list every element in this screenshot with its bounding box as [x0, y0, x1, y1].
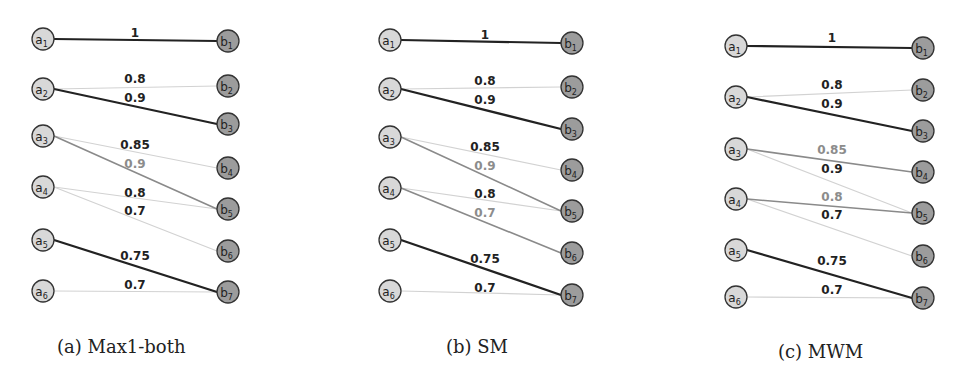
node-b6: b6: [912, 245, 934, 267]
weight-a5-b7: 0.75: [120, 249, 150, 263]
weight-a4-b5: 0.8: [124, 186, 145, 200]
weight-a5-b7: 0.75: [817, 254, 847, 268]
weight-a4-b6: 0.7: [821, 208, 842, 222]
weight-a4-b5: 0.8: [474, 187, 495, 201]
node-b3: b3: [217, 113, 239, 135]
node-a6: a6: [32, 280, 54, 302]
edge-weights: 10.80.90.850.90.80.70.750.7: [470, 28, 500, 295]
caption-sm: (b) SM: [446, 336, 508, 357]
node-a3: a3: [379, 126, 401, 148]
node-b2: b2: [912, 79, 934, 101]
weight-a2-b2: 0.8: [124, 72, 145, 86]
weight-a2-b3: 0.9: [124, 91, 145, 105]
node-a1: a1: [32, 28, 54, 50]
node-b3: b3: [912, 120, 934, 142]
weight-a3-b4: 0.85: [470, 140, 500, 154]
node-b5: b5: [561, 200, 583, 222]
weight-a6-b7: 0.7: [474, 281, 495, 295]
node-a4: a4: [379, 177, 401, 199]
node-a5: a5: [32, 229, 54, 251]
edge-a6-b7: [747, 297, 912, 298]
weight-a3-b4: 0.85: [120, 138, 150, 152]
panel-a: 10.80.90.850.90.80.70.750.7a1a2a3a4a5a6b…: [32, 26, 239, 303]
node-b7: b7: [912, 287, 934, 309]
weight-a4-b5: 0.8: [821, 190, 842, 204]
node-b4: b4: [912, 161, 934, 183]
node-b2: b2: [217, 75, 239, 97]
node-b5: b5: [217, 198, 239, 220]
node-a5: a5: [379, 229, 401, 251]
node-b4: b4: [217, 157, 239, 179]
panel-c: 10.80.90.850.90.80.70.750.7a1a2a3a4a5a6b…: [725, 31, 934, 309]
node-a6: a6: [379, 280, 401, 302]
node-b7: b7: [217, 281, 239, 303]
node-b1: b1: [912, 37, 934, 59]
node-a2: a2: [725, 86, 747, 108]
panel-b: 10.80.90.850.90.80.70.750.7a1a2a3a4a5a6b…: [379, 28, 583, 306]
node-a1: a1: [379, 29, 401, 51]
weight-a3-b5: 0.9: [124, 157, 145, 171]
weight-a5-b7: 0.75: [470, 252, 500, 266]
weight-a3-b5: 0.9: [474, 159, 495, 173]
node-a3: a3: [32, 125, 54, 147]
node-b6: b6: [217, 240, 239, 262]
edge-a2-b2: [54, 86, 217, 89]
node-b1: b1: [217, 30, 239, 52]
node-a4: a4: [32, 176, 54, 198]
edge-weights: 10.80.90.850.90.80.70.750.7: [817, 31, 847, 297]
node-a1: a1: [725, 35, 747, 57]
bipartite-matching-figure: 10.80.90.850.90.80.70.750.7a1a2a3a4a5a6b…: [0, 0, 961, 377]
node-b1: b1: [561, 32, 583, 54]
weight-a2-b2: 0.8: [821, 78, 842, 92]
node-a2: a2: [32, 78, 54, 100]
node-a3: a3: [725, 138, 747, 160]
weight-a3-b5: 0.9: [821, 162, 842, 176]
node-a4: a4: [725, 188, 747, 210]
edge-weights: 10.80.90.850.90.80.70.750.7: [120, 26, 150, 292]
weight-a3-b4: 0.85: [817, 143, 847, 157]
weight-a6-b7: 0.7: [821, 283, 842, 297]
weight-a4-b6: 0.7: [474, 206, 495, 220]
node-b4: b4: [561, 159, 583, 181]
edge-a1-b1: [747, 46, 912, 48]
caption-max1-both: (a) Max1-both: [57, 336, 186, 357]
weight-a4-b6: 0.7: [124, 204, 145, 218]
weight-a1-b1: 1: [481, 28, 489, 42]
node-b5: b5: [912, 202, 934, 224]
node-a6: a6: [725, 286, 747, 308]
weight-a2-b3: 0.9: [821, 97, 842, 111]
node-a5: a5: [725, 239, 747, 261]
weight-a2-b3: 0.9: [474, 93, 495, 107]
weight-a1-b1: 1: [828, 31, 836, 45]
weight-a2-b2: 0.8: [474, 74, 495, 88]
node-a2: a2: [379, 78, 401, 100]
weight-a1-b1: 1: [131, 26, 139, 40]
node-b7: b7: [561, 284, 583, 306]
caption-mwm: (c) MWM: [778, 341, 863, 362]
node-b6: b6: [561, 242, 583, 264]
weight-a6-b7: 0.7: [124, 278, 145, 292]
node-b2: b2: [561, 76, 583, 98]
node-b3: b3: [561, 118, 583, 140]
